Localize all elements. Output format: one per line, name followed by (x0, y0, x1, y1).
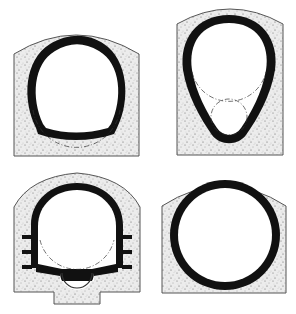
lining-opening (178, 188, 272, 282)
flange-right-1 (122, 235, 132, 239)
lining-opening (36, 44, 119, 132)
flange-left-1 (22, 235, 32, 239)
flange-right-3 (122, 265, 132, 269)
panel-top-right (177, 9, 283, 155)
tunnel-sections-diagram (0, 0, 296, 314)
flange-left-3 (22, 265, 32, 269)
panel-bottom-right (162, 180, 286, 293)
panel-bottom-left (14, 173, 140, 304)
lining-opening (38, 190, 116, 269)
flange-right-2 (122, 250, 132, 254)
flange-left-2 (22, 250, 32, 254)
panel-top-left (14, 35, 139, 156)
